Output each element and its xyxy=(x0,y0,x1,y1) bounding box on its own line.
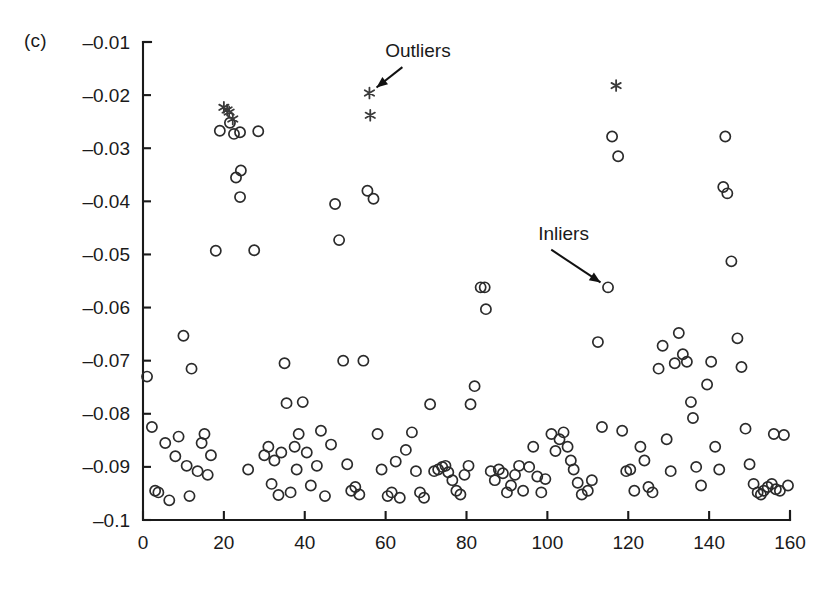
data-point-inlier xyxy=(395,493,405,503)
data-point-inlier xyxy=(253,126,263,136)
data-point-inlier xyxy=(320,491,330,501)
data-point-inlier xyxy=(160,438,170,448)
data-point-inlier xyxy=(714,464,724,474)
data-point-outlier xyxy=(611,80,620,91)
data-point-inlier xyxy=(192,466,202,476)
data-point-inlier xyxy=(184,491,194,501)
y-tick-label: –0.1 xyxy=(93,510,130,531)
data-point-inlier xyxy=(294,429,304,439)
data-point-inlier xyxy=(481,304,491,314)
data-point-inlier xyxy=(524,462,534,472)
data-point-inlier xyxy=(401,445,411,455)
data-point-inlier xyxy=(178,331,188,341)
data-point-inlier xyxy=(273,490,283,500)
x-tick-label: 140 xyxy=(693,532,725,553)
data-point-inlier xyxy=(740,424,750,434)
data-point-inlier xyxy=(536,487,546,497)
data-point-inlier xyxy=(518,486,528,496)
data-point-inlier xyxy=(358,356,368,366)
data-point-inlier xyxy=(702,379,712,389)
data-point-inlier xyxy=(372,429,382,439)
data-point-inlier xyxy=(597,422,607,432)
data-point-inlier xyxy=(298,397,308,407)
annotation-label-outliers: Outliers xyxy=(385,40,450,61)
x-tick-label: 100 xyxy=(532,532,564,553)
data-point-inlier xyxy=(607,131,617,141)
data-point-inlier xyxy=(263,442,273,452)
data-point-outlier xyxy=(366,110,375,121)
data-point-inlier xyxy=(391,456,401,466)
x-tick-label: 60 xyxy=(375,532,396,553)
data-point-inlier xyxy=(279,358,289,368)
data-point-inlier xyxy=(215,126,225,136)
data-point-inlier xyxy=(603,282,613,292)
data-point-inlier xyxy=(407,427,417,437)
data-point-inlier xyxy=(243,464,253,474)
data-point-inlier xyxy=(425,399,435,409)
x-tick-label: 20 xyxy=(213,532,234,553)
data-point-inlier xyxy=(206,450,216,460)
data-point-inlier xyxy=(186,364,196,374)
y-tick-label: –0.01 xyxy=(82,32,130,53)
data-point-inlier xyxy=(769,429,779,439)
data-point-inlier xyxy=(629,486,639,496)
data-point-inlier xyxy=(368,194,378,204)
data-point-inlier xyxy=(326,439,336,449)
data-point-inlier xyxy=(249,245,259,255)
data-point-inlier xyxy=(674,328,684,338)
data-point-inlier xyxy=(235,192,245,202)
y-tick-label: –0.03 xyxy=(82,138,130,159)
data-point-inlier xyxy=(203,470,213,480)
figure-panel: (c) –0.01–0.02–0.03–0.04–0.05–0.06–0.07–… xyxy=(0,0,825,595)
data-point-inlier xyxy=(573,478,583,488)
data-point-inlier xyxy=(710,442,720,452)
data-point-inlier xyxy=(306,480,316,490)
data-point-inlier xyxy=(266,479,276,489)
data-point-inlier xyxy=(691,462,701,472)
data-point-inlier xyxy=(447,475,457,485)
data-point-inlier xyxy=(376,464,386,474)
data-point-inlier xyxy=(666,466,676,476)
data-point-inlier xyxy=(312,461,322,471)
data-point-inlier xyxy=(211,246,221,256)
data-point-inlier xyxy=(170,451,180,461)
data-point-inlier xyxy=(514,461,524,471)
data-point-inlier xyxy=(290,442,300,452)
data-point-inlier xyxy=(587,475,597,485)
data-point-inlier xyxy=(593,337,603,347)
annotation-arrowhead-inliers xyxy=(589,272,601,282)
x-tick-label: 120 xyxy=(612,532,644,553)
y-tick-label: –0.02 xyxy=(82,85,130,106)
axis-spine xyxy=(143,42,790,520)
data-point-inlier xyxy=(316,426,326,436)
data-point-inlier xyxy=(528,442,538,452)
data-point-inlier xyxy=(302,447,312,457)
data-point-inlier xyxy=(164,495,174,505)
data-point-inlier xyxy=(338,356,348,366)
data-point-inlier xyxy=(744,459,754,469)
x-tick-label: 80 xyxy=(456,532,477,553)
y-tick-label: –0.04 xyxy=(82,191,130,212)
data-point-inlier xyxy=(613,151,623,161)
data-point-inlier xyxy=(562,442,572,452)
y-tick-label: –0.06 xyxy=(82,297,130,318)
data-point-inlier xyxy=(635,442,645,452)
data-point-inlier xyxy=(653,364,663,374)
data-point-inlier xyxy=(411,466,421,476)
data-point-inlier xyxy=(639,455,649,465)
data-point-inlier xyxy=(199,429,209,439)
data-point-inlier xyxy=(153,487,163,497)
data-point-inlier xyxy=(550,446,560,456)
data-point-inlier xyxy=(281,398,291,408)
data-point-inlier xyxy=(706,357,716,367)
data-point-inlier xyxy=(342,459,352,469)
y-tick-label: –0.07 xyxy=(82,350,130,371)
data-point-inlier xyxy=(235,127,245,137)
x-tick-label: 160 xyxy=(774,532,806,553)
y-tick-label: –0.09 xyxy=(82,456,130,477)
data-point-inlier xyxy=(173,432,183,442)
data-point-inlier xyxy=(182,461,192,471)
data-point-inlier xyxy=(783,480,793,490)
data-point-inlier xyxy=(779,430,789,440)
data-point-inlier xyxy=(286,487,296,497)
